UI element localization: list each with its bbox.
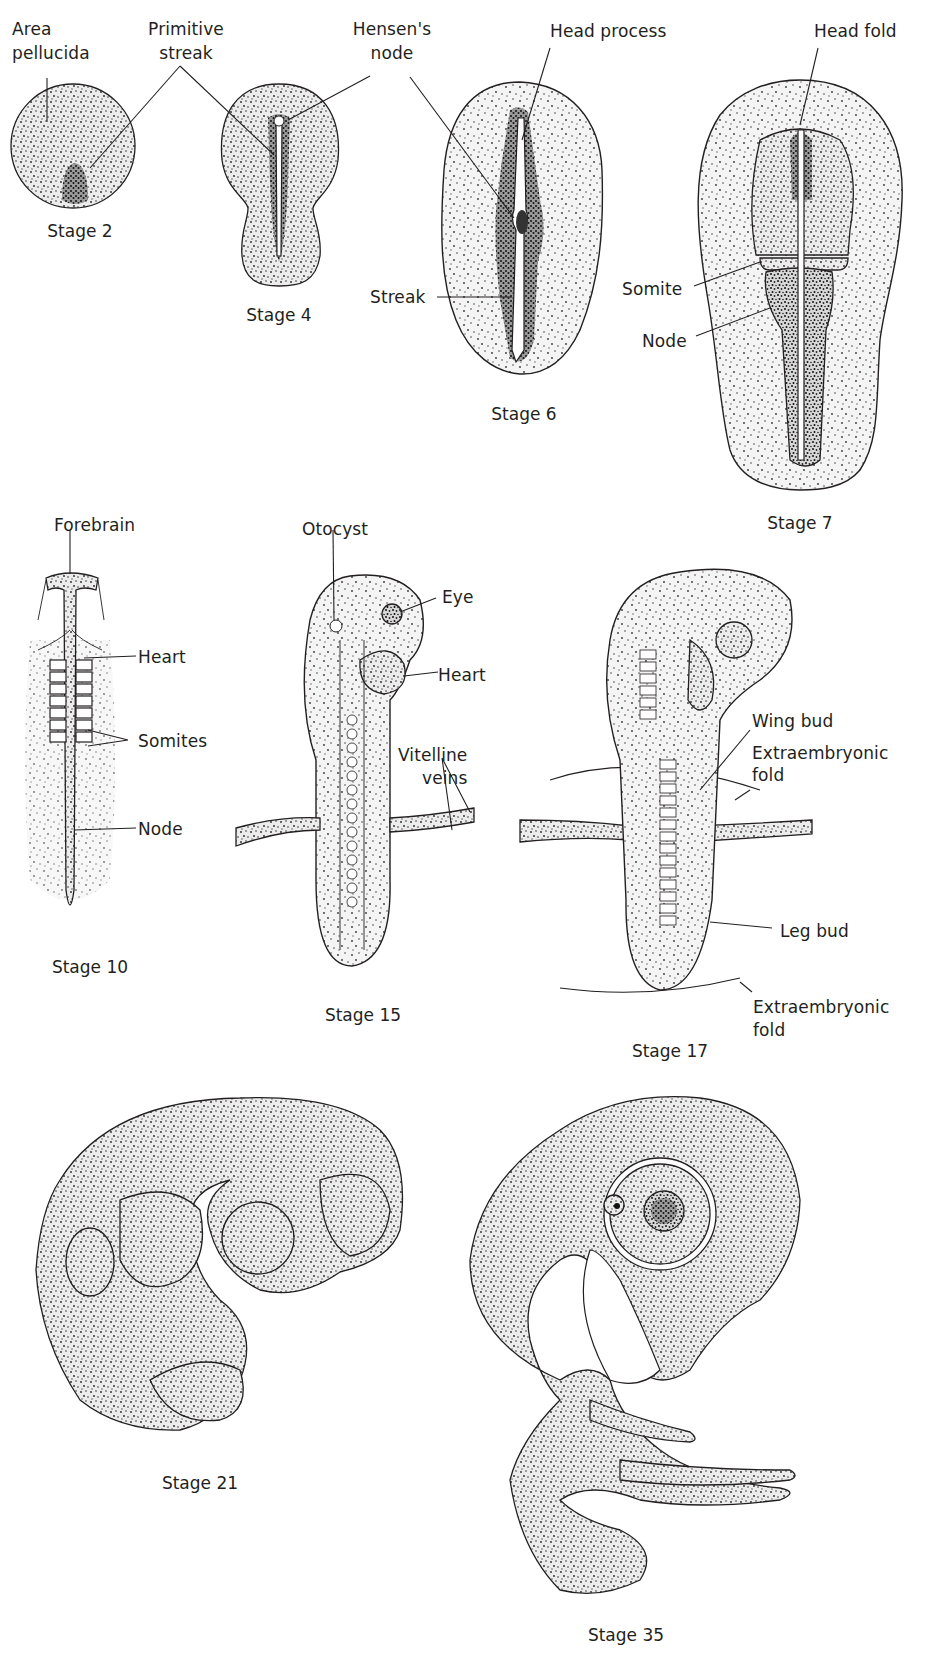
label-somites: Somites: [138, 730, 207, 752]
label-wing-bud: Wing bud: [752, 710, 833, 732]
leg-bud-leader: [710, 922, 772, 928]
label-hensens-node-line2: node: [371, 42, 414, 64]
caption-stage-10: Stage 10: [52, 956, 128, 978]
stage-2-drawing: [11, 66, 180, 208]
label-eye: Eye: [442, 586, 474, 608]
label-heart-stage10: Heart: [138, 646, 186, 668]
label-forebrain: Forebrain: [54, 514, 135, 536]
label-hensens-node-line1: Hensen's: [353, 18, 431, 40]
extraembryonic-fold-bottom-leader: [740, 982, 752, 992]
caption-stage-4: Stage 4: [246, 304, 311, 326]
stage-10-drawing: [25, 530, 136, 905]
stage-21-drawing: [36, 1098, 403, 1431]
label-node-stage7: Node: [642, 330, 687, 352]
label-head-fold: Head fold: [814, 20, 897, 42]
label-heart-stage15: Heart: [438, 664, 486, 686]
label-otocyst: Otocyst: [302, 518, 368, 540]
label-vitelline-veins-line1: Vitelline: [398, 744, 467, 766]
caption-stage-7: Stage 7: [767, 512, 832, 534]
caption-stage-17: Stage 17: [632, 1040, 708, 1062]
label-extraembryonic-fold-bottom-line2: fold: [753, 1019, 785, 1041]
label-head-process: Head process: [550, 20, 666, 42]
label-area-pellucida-line1: Area: [12, 18, 52, 40]
caption-stage-21: Stage 21: [162, 1472, 238, 1494]
label-leg-bud: Leg bud: [780, 920, 849, 942]
stage-35-drawing: [470, 1097, 800, 1594]
stage-6-drawing: [410, 48, 602, 374]
caption-stage-2: Stage 2: [47, 220, 112, 242]
label-extraembryonic-fold-bottom-line1: Extraembryonic: [753, 996, 889, 1018]
caption-stage-15: Stage 15: [325, 1004, 401, 1026]
label-streak: Streak: [370, 286, 425, 308]
caption-stage-6: Stage 6: [491, 403, 556, 425]
label-node-stage10: Node: [138, 818, 183, 840]
extraembryonic-fold-top-leader: [735, 790, 750, 800]
label-primitive-streak-line2: streak: [159, 42, 212, 64]
label-extraembryonic-fold-top-line1: Extraembryonic: [752, 742, 888, 764]
label-extraembryonic-fold-top-line2: fold: [752, 764, 784, 786]
caption-stage-35: Stage 35: [588, 1624, 664, 1646]
label-area-pellucida-line2: pellucida: [12, 42, 90, 64]
stage-4-drawing: [180, 66, 370, 286]
label-vitelline-veins-line2: veins: [422, 767, 467, 789]
stage-7-drawing: [694, 48, 902, 490]
label-primitive-streak-line1: Primitive: [148, 18, 224, 40]
label-somite: Somite: [622, 278, 682, 300]
heart-leader-15: [404, 672, 438, 676]
